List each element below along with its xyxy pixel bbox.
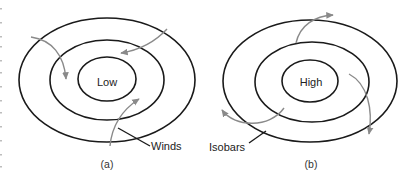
callout-label-winds: Winds [151, 140, 182, 152]
wind-arrow-icon [296, 15, 333, 43]
pressure-systems-diagram: Low Winds (a) High Isobars (b) [0, 0, 414, 178]
callout-label-isobars: Isobars [209, 141, 246, 153]
wind-arrow-icon [222, 108, 284, 123]
edge-artifacts [0, 8, 2, 168]
panel-caption-a: (a) [101, 158, 114, 170]
panel-low-pressure: Low Winds (a) [19, 18, 195, 170]
center-label-high: High [300, 76, 323, 88]
winds-leader-line [118, 128, 150, 146]
panel-high-pressure: High Isobars (b) [209, 15, 397, 170]
panel-caption-b: (b) [305, 158, 318, 170]
center-label-low: Low [97, 76, 117, 88]
isobars-leader-line [249, 131, 266, 143]
